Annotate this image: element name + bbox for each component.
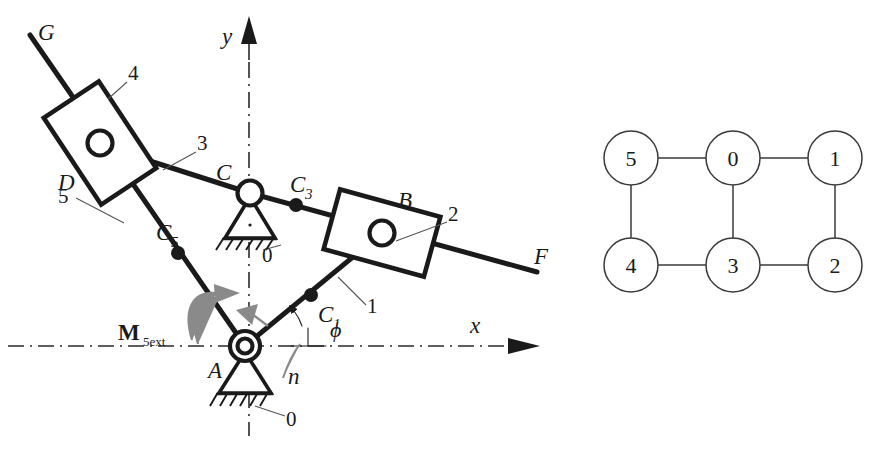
endpoint-label-F: F bbox=[533, 244, 549, 269]
mechanism-figure: y x D B bbox=[0, 0, 877, 458]
link-3-label: 3 bbox=[197, 131, 208, 155]
slider-block-D-pin bbox=[88, 131, 113, 156]
contact-point-C1-dot bbox=[304, 288, 318, 302]
contact-point-C5-sub: 5 bbox=[171, 234, 179, 250]
joint-label-C: C bbox=[216, 160, 232, 185]
velocity-arrow-group bbox=[236, 304, 268, 326]
graph-node-3: 3 bbox=[706, 238, 760, 292]
contact-point-C3-label: C bbox=[290, 172, 306, 197]
pivot-A-hatching bbox=[210, 394, 273, 406]
link-2-label: 2 bbox=[448, 202, 459, 226]
ground-label-C: 0 bbox=[262, 243, 273, 267]
moment-label-sub: 5ext bbox=[143, 334, 166, 349]
moment-arrowhead bbox=[214, 284, 240, 303]
pivot-C-circle bbox=[238, 181, 263, 206]
angle-phi-label: ϕ bbox=[330, 317, 341, 342]
graph-node-0: 0 bbox=[706, 131, 760, 185]
link-1-label: 1 bbox=[367, 294, 378, 318]
link-5-label: 5 bbox=[58, 184, 69, 208]
y-axis-arrowhead bbox=[241, 16, 257, 44]
link-4-label: 4 bbox=[128, 61, 139, 85]
link-4-leader bbox=[108, 82, 127, 99]
contact-point-C5-label: C bbox=[156, 220, 172, 245]
normal-label-n: n bbox=[288, 364, 300, 389]
ground-label-A: 0 bbox=[286, 407, 297, 431]
figure-root: y x D B bbox=[0, 0, 877, 458]
graph-node-2-label: 2 bbox=[830, 253, 841, 278]
graph-node-2: 2 bbox=[808, 238, 862, 292]
graph-node-3-label: 3 bbox=[728, 253, 739, 278]
angle-phi-group: ϕ n bbox=[283, 311, 341, 389]
velocity-arrowhead bbox=[236, 304, 258, 325]
graph-node-1-label: 1 bbox=[830, 146, 841, 171]
joint-label-A: A bbox=[206, 358, 223, 383]
pivot-C-center-dot bbox=[248, 223, 251, 226]
endpoint-label-G: G bbox=[38, 20, 55, 45]
axes-group: y x bbox=[8, 16, 540, 436]
ground-A-leader bbox=[255, 406, 285, 416]
graph-node-4-label: 4 bbox=[626, 253, 637, 278]
graph-node-1: 1 bbox=[808, 131, 862, 185]
link-3-leader bbox=[163, 152, 196, 170]
contact-point-C3-dot bbox=[289, 198, 303, 212]
graph-node-0-label: 0 bbox=[728, 146, 739, 171]
x-axis-label: x bbox=[469, 313, 481, 338]
graph-node-5: 5 bbox=[604, 131, 658, 185]
graph-node-5-label: 5 bbox=[626, 146, 637, 171]
angle-arc bbox=[294, 311, 302, 326]
moment-label-main: M bbox=[118, 320, 140, 345]
joint-label-B: B bbox=[398, 188, 412, 213]
x-axis-arrowhead bbox=[508, 338, 540, 354]
contact-point-C3-sub: 3 bbox=[304, 186, 313, 202]
pivot-A-inner-circle bbox=[238, 339, 253, 354]
y-axis-label: y bbox=[220, 24, 233, 49]
graph-node-4: 4 bbox=[604, 238, 658, 292]
slider-block-B-pin bbox=[370, 221, 395, 246]
contracted-graph: 5 0 1 4 3 2 bbox=[604, 131, 862, 292]
link-1-leader bbox=[338, 277, 366, 305]
